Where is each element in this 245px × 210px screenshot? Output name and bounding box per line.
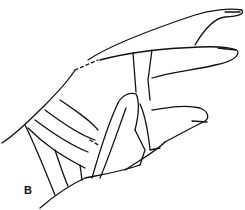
- hand-drawing: [0, 0, 245, 210]
- hand-taping-illustration: B: [0, 0, 245, 210]
- figure-label: B: [24, 184, 32, 196]
